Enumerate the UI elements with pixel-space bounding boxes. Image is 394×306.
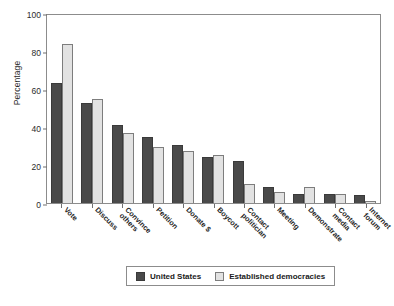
x-axis-labels: VoteDiscussConvinceothersPetitionDonate …: [46, 206, 381, 254]
chart-legend: United States Established democracies: [126, 266, 335, 286]
bar-group: [319, 15, 349, 203]
x-axis-label: Vote: [62, 206, 79, 223]
bar: [153, 147, 164, 203]
bar-group: [108, 15, 138, 203]
x-axis-label: Boycott: [215, 206, 240, 231]
bar: [123, 133, 134, 203]
bar: [354, 195, 365, 203]
y-axis-tick: 80: [32, 48, 47, 58]
x-axis-label: Convinceothers: [117, 206, 152, 241]
y-axis-tick: 100: [27, 10, 47, 20]
bar: [365, 201, 376, 203]
bar: [112, 125, 123, 203]
x-axis-label: Donate $: [184, 206, 212, 234]
bar: [304, 187, 315, 203]
bar: [335, 194, 346, 203]
legend-swatch-icon: [136, 272, 145, 281]
legend-item-united-states: United States: [136, 272, 201, 281]
bar: [233, 161, 244, 203]
bar: [183, 151, 194, 203]
y-axis-label: Percentage: [12, 38, 22, 128]
bar: [81, 103, 92, 203]
legend-label: United States: [150, 272, 201, 281]
bar-groups: [47, 15, 380, 203]
bar: [324, 194, 335, 203]
plot-area: 020406080100: [46, 14, 381, 204]
legend-item-established-democracies: Established democracies: [215, 272, 325, 281]
bar-group: [289, 15, 319, 203]
bar-group: [198, 15, 228, 203]
bar: [263, 187, 274, 203]
bar: [274, 192, 285, 203]
bar: [92, 99, 103, 204]
y-axis-tick: 40: [32, 124, 47, 134]
bar-group: [259, 15, 289, 203]
bar: [202, 157, 213, 203]
bar: [51, 83, 62, 203]
bar-group: [77, 15, 107, 203]
bar-group: [138, 15, 168, 203]
y-axis-tick: 20: [32, 162, 47, 172]
legend-label: Established democracies: [229, 272, 325, 281]
x-axis-label: Contactpolitician: [239, 206, 274, 241]
bar: [293, 194, 304, 203]
bar: [244, 184, 255, 203]
bar: [142, 137, 153, 204]
bar: [62, 44, 73, 203]
y-axis-tick: 60: [32, 86, 47, 96]
bar-group: [47, 15, 77, 203]
x-axis-label: Petition: [154, 206, 179, 231]
bar-group: [229, 15, 259, 203]
legend-swatch-icon: [215, 272, 224, 281]
bar: [213, 155, 224, 203]
x-axis-label: Discuss: [93, 206, 119, 232]
x-axis-label: Internetforum: [361, 206, 392, 237]
bar: [172, 145, 183, 203]
x-axis-label: Meeting: [275, 206, 301, 232]
bar-chart: Percentage 020406080100 VoteDiscussConvi…: [0, 0, 394, 306]
bar-group: [350, 15, 380, 203]
bar-group: [168, 15, 198, 203]
